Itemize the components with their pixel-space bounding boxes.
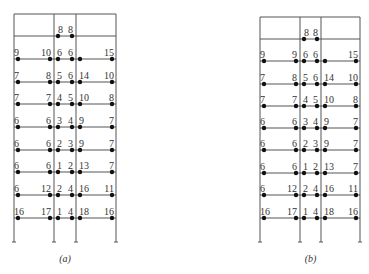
hinge-label: 5 <box>57 70 62 81</box>
hinge-label: 14 <box>79 70 89 81</box>
hinge-label: 8 <box>304 27 309 38</box>
hinge-label: 7 <box>109 115 114 126</box>
hinge-label: 2 <box>313 161 318 172</box>
hinge-label: 16 <box>348 206 358 217</box>
hinge-label: 7 <box>353 161 358 172</box>
hinge-label: 9 <box>14 47 19 58</box>
hinge-label: 6 <box>260 116 265 127</box>
hinge-label: 7 <box>353 116 358 127</box>
hinge-label: 2 <box>303 183 308 194</box>
hinge-label: 13 <box>79 160 89 171</box>
hinge-label: 6 <box>313 72 318 83</box>
hinge-label: 3 <box>57 115 62 126</box>
hinge-label: 7 <box>14 92 19 103</box>
hinge-label: 6 <box>260 138 265 149</box>
hinge-label: 8 <box>68 24 73 35</box>
hinge-label: 10 <box>79 92 89 103</box>
hinge-label: 11 <box>104 183 114 194</box>
hinge-label: 7 <box>46 92 51 103</box>
hinge-label: 6 <box>46 138 51 149</box>
hinge-label: 1 <box>303 206 308 217</box>
hinge-label: 12 <box>41 183 51 194</box>
hinge-label: 10 <box>324 94 334 105</box>
hinge-label: 2 <box>57 183 62 194</box>
hinge-label: 6 <box>14 183 19 194</box>
hinge-label: 7 <box>353 138 358 149</box>
hinge-label: 1 <box>303 161 308 172</box>
hinge-label: 8 <box>58 24 63 35</box>
hinge-label: 16 <box>79 183 89 194</box>
hinge-label: 14 <box>324 72 334 83</box>
hinge-label: 17 <box>41 206 51 217</box>
hinge-label: 15 <box>348 49 358 60</box>
hinge-label: 2 <box>57 138 62 149</box>
hinge-label: 1 <box>57 206 62 217</box>
hinge-label: 2 <box>303 138 308 149</box>
hinge-label: 8 <box>292 72 297 83</box>
hinge-label: 16 <box>324 183 334 194</box>
hinge-label: 9 <box>260 49 265 60</box>
hinge-label: 16 <box>14 206 24 217</box>
hinge-label: 6 <box>14 115 19 126</box>
hinge-label: 8 <box>46 70 51 81</box>
hinge-label: 4 <box>313 116 318 127</box>
hinge-label: 6 <box>292 138 297 149</box>
hinge-label: 4 <box>68 115 73 126</box>
hinge-label: 6 <box>313 49 318 60</box>
hinge-label: 15 <box>104 47 114 58</box>
frame-caption: (a) <box>59 253 71 265</box>
hinge-label: 7 <box>260 94 265 105</box>
hinge-label: 9 <box>292 49 297 60</box>
hinge-label: 3 <box>313 138 318 149</box>
hinge-label: 16 <box>260 206 270 217</box>
hinge-label: 7 <box>109 138 114 149</box>
hinge-label: 7 <box>14 70 19 81</box>
hinge-label: 6 <box>68 70 73 81</box>
hinge-label: 17 <box>287 206 297 217</box>
hinge-label: 6 <box>260 183 265 194</box>
hinge-label: 4 <box>57 92 62 103</box>
hinge-label: 6 <box>46 160 51 171</box>
hinge-label: 3 <box>303 116 308 127</box>
hinge-label: 2 <box>68 160 73 171</box>
hinge-label: 13 <box>324 161 334 172</box>
hinge-label: 8 <box>313 27 318 38</box>
hinge-label: 8 <box>109 92 114 103</box>
hinge-label: 9 <box>324 116 329 127</box>
hinge-label: 12 <box>287 183 297 194</box>
hinge-label: 16 <box>104 206 114 217</box>
hinge-label: 6 <box>260 161 265 172</box>
hinge-label: 11 <box>348 183 358 194</box>
hinge-label: 6 <box>14 138 19 149</box>
frame-hinge-diagram: 8891066157856141077451086634976623976612… <box>0 0 369 274</box>
hinge-label: 5 <box>313 94 318 105</box>
hinge-label: 7 <box>292 94 297 105</box>
hinge-label: 4 <box>68 206 73 217</box>
hinge-dot <box>78 57 82 61</box>
hinge-label: 6 <box>46 115 51 126</box>
hinge-dot <box>323 59 327 63</box>
hinge-label: 4 <box>313 183 318 194</box>
hinge-label: 10 <box>41 47 51 58</box>
hinge-label: 6 <box>68 47 73 58</box>
hinge-label: 4 <box>68 183 73 194</box>
hinge-label: 18 <box>79 206 89 217</box>
hinge-label: 6 <box>303 49 308 60</box>
hinge-label: 6 <box>14 160 19 171</box>
hinge-label: 10 <box>348 72 358 83</box>
frame-caption: (b) <box>305 253 317 265</box>
hinge-label: 7 <box>109 160 114 171</box>
hinge-label: 4 <box>313 206 318 217</box>
hinge-label: 9 <box>79 138 84 149</box>
hinge-label: 6 <box>292 116 297 127</box>
hinge-label: 7 <box>260 72 265 83</box>
hinge-label: 6 <box>292 161 297 172</box>
frame-a: 8891066157856141077451086634976623976612… <box>12 14 118 265</box>
hinge-label: 9 <box>79 115 84 126</box>
hinge-label: 9 <box>324 138 329 149</box>
hinge-label: 10 <box>104 70 114 81</box>
hinge-label: 1 <box>57 160 62 171</box>
hinge-label: 8 <box>353 94 358 105</box>
hinge-label: 18 <box>324 206 334 217</box>
hinge-label: 3 <box>68 138 73 149</box>
